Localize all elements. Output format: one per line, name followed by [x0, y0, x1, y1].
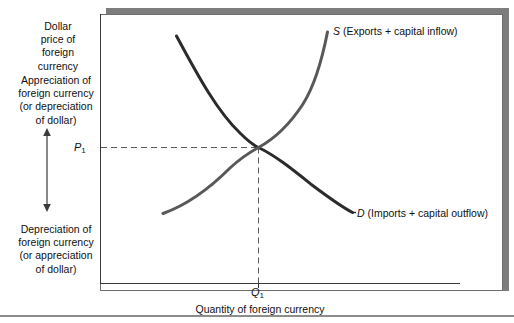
quantity-tick-subscript: 1	[260, 291, 264, 300]
appreciation-note: Appreciation of foreign currency (or dep…	[0, 74, 112, 127]
price-tick-subscript: 1	[81, 146, 85, 155]
y-axis-title: Dollar price of foreign currency	[20, 20, 96, 73]
quantity-tick-label: Q1	[251, 286, 264, 300]
supply-curve-label: S (Exports + capital inflow)	[333, 25, 458, 37]
figure-shadow-right	[503, 8, 509, 291]
demand-curve-description: (Imports + capital outflow)	[365, 207, 488, 219]
page-bottom-rule	[0, 315, 514, 317]
supply-curve-symbol: S	[333, 25, 340, 37]
demand-curve-label: D (Imports + capital outflow)	[357, 207, 488, 219]
depreciation-note: Depreciation of foreign currency (or app…	[0, 223, 112, 276]
supply-curve-description: (Exports + capital inflow)	[340, 25, 458, 37]
x-axis-title: Quantity of foreign currency	[150, 303, 370, 315]
price-tick-label: P1	[74, 141, 86, 155]
quantity-tick-symbol: Q	[251, 286, 260, 298]
plot-frame	[100, 14, 503, 291]
demand-curve-symbol: D	[357, 207, 365, 219]
x-axis-line	[100, 283, 460, 284]
vertical-double-arrow-icon	[34, 128, 60, 212]
